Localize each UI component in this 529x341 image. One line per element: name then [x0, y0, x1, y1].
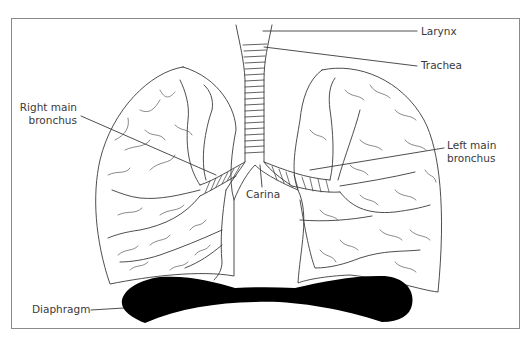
- diaphragm-label: Diaphragm: [32, 303, 90, 316]
- right-bronchus-rings: [205, 166, 240, 193]
- left-lung-vessels: [310, 85, 436, 272]
- left-lung-outline: [294, 68, 441, 292]
- right-lung-outline: [96, 67, 236, 284]
- left-main-bronchus-label-line2: bronchus: [447, 152, 496, 165]
- larynx-label: Larynx: [421, 25, 457, 38]
- carina-leader: [260, 165, 262, 187]
- carina-label: Carina: [246, 188, 280, 201]
- trachea-label: Trachea: [421, 59, 462, 72]
- left-main-bronchus-label-line1: Left main: [447, 139, 496, 152]
- lungs-diagram: [0, 0, 529, 341]
- right-main-bronchus-leader: [81, 116, 216, 175]
- diaphragm-leader: [91, 308, 124, 310]
- left-main-bronchus-leader: [310, 148, 444, 170]
- left-main-bronchus-label: Left main bronchus: [447, 139, 496, 165]
- right-main-bronchus-label: Right main bronchus: [19, 101, 77, 127]
- right-main-bronchus-label-line1: Right main: [19, 101, 77, 114]
- right-main-bronchus-label-line2: bronchus: [19, 114, 77, 127]
- trachea-leader: [264, 47, 417, 66]
- trachea-rings: [243, 44, 267, 153]
- right-lung-vessels: [108, 90, 210, 270]
- trachea-left-wall: [226, 25, 245, 190]
- diaphragm-shape: [122, 276, 413, 323]
